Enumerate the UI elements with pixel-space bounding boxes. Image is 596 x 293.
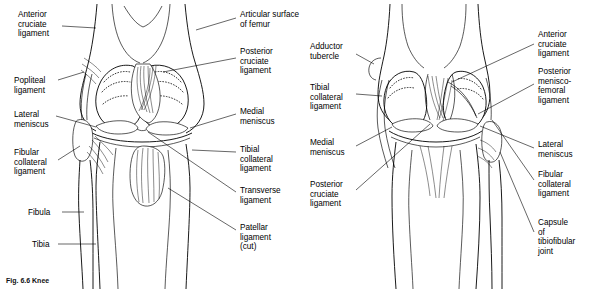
label-posterior-cruciate-ligament-posterior: Posterior cruciate ligament [310, 180, 343, 209]
label-tibial-collateral-ligament: Tibial collateral ligament [240, 145, 273, 174]
label-capsule-of-tibiofibular-joint: Capsule of tibiofibular joint [538, 218, 575, 256]
anatomy-figure: Anterior cruciate ligament Popliteal lig… [0, 0, 596, 293]
label-posterior-cruciate-ligament: Posterior cruciate ligament [240, 47, 273, 76]
label-articular-surface-of-femur: Articular surface of femur [240, 10, 299, 29]
label-medial-meniscus: Medial meniscus [240, 107, 275, 126]
label-anterior-cruciate-ligament: Anterior cruciate ligament [18, 10, 49, 39]
label-popliteal-ligament: Popliteal ligament [14, 76, 45, 95]
label-patellar-ligament-cut: Patellar ligament (cut) [240, 223, 271, 252]
label-posterior-meniscofemoral-ligament: Posterior menisco- femoral ligament [538, 67, 571, 105]
label-fibular-collateral-ligament: Fibular collateral ligament [14, 148, 47, 177]
label-tibial-collateral-ligament-posterior: Tibial collateral ligament [310, 83, 343, 112]
posterior-view-drawing [356, 4, 534, 289]
label-transverse-ligament: Transverse ligament [240, 186, 281, 205]
figure-caption: Fig. 6.6 Knee [6, 277, 49, 284]
label-lateral-meniscus: Lateral meniscus [14, 110, 49, 129]
knee-anatomy-illustration [0, 0, 596, 293]
label-adductor-tubercle: Adductor tubercle [310, 42, 343, 61]
label-medial-meniscus-posterior: Medial meniscus [310, 138, 345, 157]
anterior-view-drawing [56, 4, 236, 289]
label-fibula: Fibula [28, 208, 50, 218]
label-lateral-meniscus-posterior: Lateral meniscus [538, 140, 573, 159]
label-tibia: Tibia [32, 240, 49, 250]
label-fibular-collateral-ligament-posterior: Fibular collateral ligament [538, 170, 571, 199]
label-anterior-cruciate-ligament-posterior: Anterior cruciate ligament [538, 30, 569, 59]
